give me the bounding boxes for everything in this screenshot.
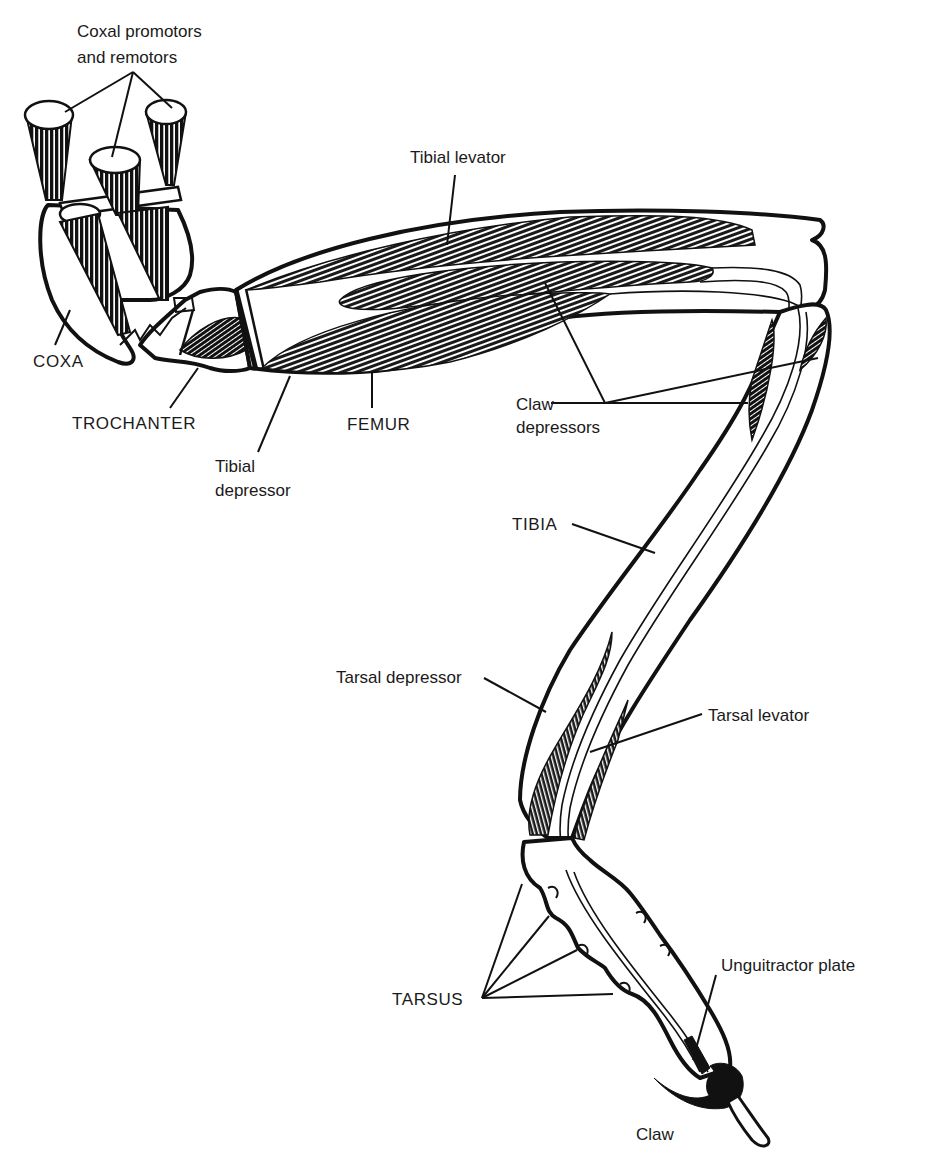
label-unguitractor-plate: Unguitractor plate (721, 956, 855, 975)
label-tarsal-levator: Tarsal levator (708, 706, 809, 725)
tarsus-segment (523, 838, 731, 1078)
label-tibia: TIBIA (512, 515, 558, 534)
label-tibial-levator: Tibial levator (410, 148, 506, 167)
label-claw-depressors-1: Claw (516, 395, 555, 414)
label-claw: Claw (636, 1125, 675, 1144)
label-claw-depressors-2: depressors (516, 418, 600, 437)
label-coxa: COXA (33, 352, 84, 371)
label-femur: FEMUR (347, 415, 410, 434)
label-tarsus: TARSUS (392, 990, 463, 1009)
label-tibial-depressor-2: depressor (215, 481, 291, 500)
leg-anatomy-diagram: Coxal promotors and remotors Tibial leva… (0, 0, 928, 1176)
label-coxal-promotors: Coxal promotors (77, 22, 202, 41)
label-tarsal-depressor: Tarsal depressor (336, 668, 462, 687)
label-tibial-depressor-1: Tibial (215, 457, 255, 476)
tibia-segment (520, 304, 830, 872)
label-coxal-remotors: and remotors (77, 48, 177, 67)
label-trochanter: TROCHANTER (72, 414, 196, 433)
